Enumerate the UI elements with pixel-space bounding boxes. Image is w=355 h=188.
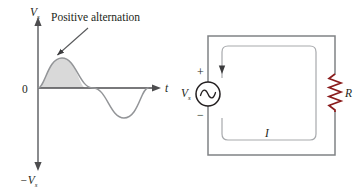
voltage-axis-label: Vs xyxy=(30,6,40,21)
polarity-negative-label: − xyxy=(197,108,204,122)
annotation-leader-line xyxy=(58,28,89,55)
polarity-positive-label: + xyxy=(197,65,204,79)
origin-label: 0 xyxy=(22,83,28,95)
current-label: I xyxy=(264,127,270,139)
annotation-label: Positive alternation xyxy=(51,11,140,23)
time-axis-label: t xyxy=(165,82,169,94)
negative-voltage-axis-label: −Vs xyxy=(20,174,38,188)
current-direction-arrowhead xyxy=(219,66,225,75)
source-voltage-label: Vs xyxy=(181,87,191,102)
time-axis-arrowhead xyxy=(152,84,161,91)
figure-svg: Positive alternation Vs −Vs 0 t + − xyxy=(0,0,355,188)
resistor-label: R xyxy=(344,87,352,99)
current-loop-path xyxy=(222,46,316,140)
figure-container: Positive alternation Vs −Vs 0 t + − xyxy=(0,0,355,188)
resistor-symbol xyxy=(329,74,341,112)
negative-voltage-axis-label-subscript: s xyxy=(35,181,38,188)
sine-waveform-graph: Positive alternation Vs −Vs 0 t xyxy=(20,6,169,188)
voltage-axis-label-subscript: s xyxy=(37,13,40,21)
voltage-axis-down-arrowhead xyxy=(34,162,41,171)
source-voltage-label-subscript: s xyxy=(188,94,191,102)
ac-source-resistor-circuit: + − Vs R I xyxy=(181,36,352,155)
